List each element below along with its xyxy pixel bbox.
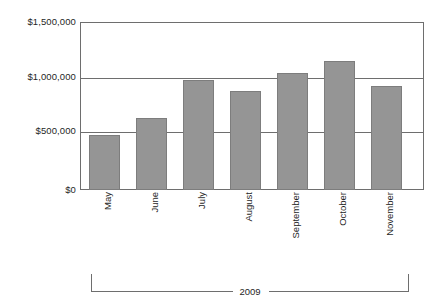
x-tick-label-june: June [147, 192, 157, 213]
year-bracket: 2009 [91, 262, 409, 292]
y-axis: $1,500,000 $1,000,000 $500,000 $0 [0, 0, 76, 301]
y-tick-label-1000000: $1,000,000 [2, 72, 76, 82]
bar-september[interactable] [277, 73, 308, 190]
x-axis: May June July August September October N… [80, 192, 424, 262]
bar-june[interactable] [136, 118, 167, 190]
x-tick-label-september: September [288, 192, 298, 238]
bar-may[interactable] [89, 135, 120, 190]
y-tick-label-0: $0 [2, 185, 76, 195]
x-tick-label-july: July [194, 192, 204, 209]
bars-group [80, 22, 424, 190]
bar-october[interactable] [324, 61, 355, 190]
x-tick-label-may: May [100, 192, 110, 210]
bracket-line-left [91, 291, 233, 292]
bracket-tick-end [408, 274, 409, 292]
bar-july[interactable] [183, 80, 214, 190]
y-tick-label-500000: $500,000 [2, 126, 76, 136]
y-tick-label-1500000: $1,500,000 [2, 17, 76, 27]
bar-august[interactable] [230, 91, 261, 190]
bracket-label-year: 2009 [234, 287, 265, 297]
x-tick-label-november: November [382, 192, 392, 236]
bar-chart: $1,500,000 $1,000,000 $500,000 $0 May Ju… [0, 0, 439, 301]
bar-november[interactable] [371, 86, 402, 190]
bracket-tick-start [91, 274, 92, 292]
x-tick-label-october: October [335, 192, 345, 226]
bracket-line-right [269, 291, 409, 292]
x-tick-label-august: August [241, 192, 251, 222]
